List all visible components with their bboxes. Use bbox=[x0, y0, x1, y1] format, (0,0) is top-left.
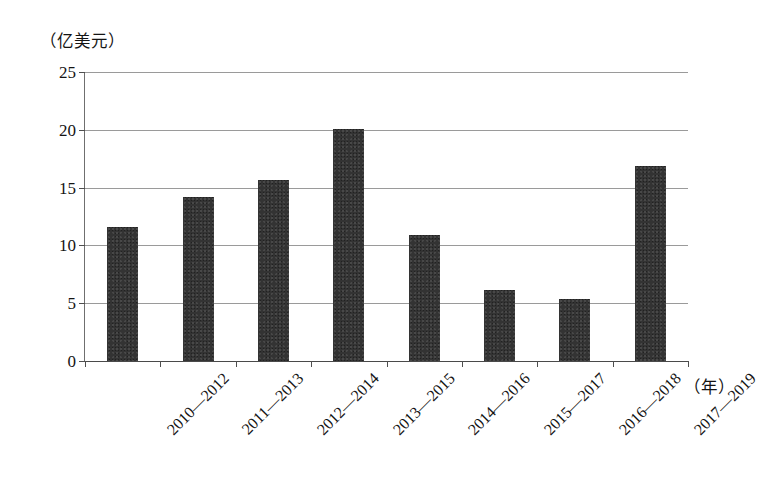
y-tick-mark bbox=[79, 188, 85, 189]
y-tick-mark bbox=[79, 245, 85, 246]
bar bbox=[333, 129, 364, 361]
x-category-label: 2012—2014 bbox=[315, 370, 383, 438]
x-category-label: 2013—2015 bbox=[390, 370, 458, 438]
bar bbox=[409, 235, 440, 361]
y-tick-mark bbox=[79, 303, 85, 304]
y-axis-line bbox=[84, 72, 85, 361]
gridline bbox=[85, 130, 688, 131]
x-axis-category-label-group: 2010—20122011—20132012—20142013—20152014… bbox=[85, 366, 688, 466]
y-tick-mark bbox=[79, 130, 85, 131]
gridline bbox=[85, 72, 688, 73]
y-tick-label: 15 bbox=[59, 179, 76, 196]
bar bbox=[258, 180, 289, 361]
x-category-label: 2015—2017 bbox=[541, 370, 609, 438]
bar bbox=[107, 227, 138, 361]
bar bbox=[183, 197, 214, 361]
gridline bbox=[85, 188, 688, 189]
y-tick-label: 0 bbox=[68, 353, 77, 370]
y-tick-label: 25 bbox=[59, 64, 76, 81]
x-category-label: 2010—2012 bbox=[164, 370, 232, 438]
bar bbox=[484, 290, 515, 361]
x-category-label: 2014—2016 bbox=[465, 370, 533, 438]
gridline bbox=[85, 245, 688, 246]
y-tick-label: 5 bbox=[68, 295, 77, 312]
y-axis-unit-label: （亿美元） bbox=[40, 28, 125, 52]
plot-area: 0510152025 bbox=[85, 72, 688, 361]
y-tick-mark bbox=[79, 72, 85, 73]
y-tick-label: 20 bbox=[59, 121, 76, 138]
x-category-label: 2011—2013 bbox=[239, 370, 306, 437]
x-category-label: 2016—2018 bbox=[616, 370, 684, 438]
x-axis-unit-label: （年） bbox=[684, 374, 735, 398]
y-tick-label: 10 bbox=[59, 237, 76, 254]
bar bbox=[635, 166, 666, 361]
x-tick-mark bbox=[688, 361, 689, 367]
bar bbox=[559, 299, 590, 361]
gridline bbox=[85, 303, 688, 304]
bar-chart-figure: （亿美元） 0510152025 2010—20122011—20132012—… bbox=[0, 0, 761, 482]
